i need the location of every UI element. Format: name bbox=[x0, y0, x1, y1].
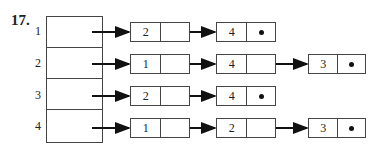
node-value: 2 bbox=[131, 87, 161, 105]
null-pointer-icon bbox=[259, 94, 264, 99]
node-value: 1 bbox=[131, 55, 161, 73]
node-next-pointer bbox=[161, 119, 189, 137]
node-value: 2 bbox=[217, 119, 247, 137]
node-next-pointer bbox=[161, 23, 189, 41]
node-next-pointer bbox=[247, 119, 275, 137]
node-value: 4 bbox=[217, 23, 247, 41]
node-next-pointer bbox=[247, 23, 275, 41]
list-4-node-2: 2 bbox=[216, 118, 276, 138]
node-next-pointer bbox=[338, 119, 365, 137]
node-value: 3 bbox=[309, 119, 338, 137]
node-value: 1 bbox=[131, 119, 161, 137]
node-value: 2 bbox=[131, 23, 161, 41]
null-pointer-icon bbox=[349, 126, 354, 131]
list-2-node-1: 1 bbox=[130, 54, 190, 74]
null-pointer-icon bbox=[259, 30, 264, 35]
node-next-pointer bbox=[338, 55, 365, 73]
list-1-node-1: 2 bbox=[130, 22, 190, 42]
node-next-pointer bbox=[161, 87, 189, 105]
node-next-pointer bbox=[247, 87, 275, 105]
list-2-node-3: 3 bbox=[308, 54, 366, 74]
node-next-pointer bbox=[247, 55, 275, 73]
null-pointer-icon bbox=[349, 62, 354, 67]
list-3-node-2: 4 bbox=[216, 86, 276, 106]
list-3-node-1: 2 bbox=[130, 86, 190, 106]
list-1-node-2: 4 bbox=[216, 22, 276, 42]
list-4-node-3: 3 bbox=[308, 118, 366, 138]
list-4-node-1: 1 bbox=[130, 118, 190, 138]
node-value: 4 bbox=[217, 55, 247, 73]
node-value: 3 bbox=[309, 55, 338, 73]
node-value: 4 bbox=[217, 87, 247, 105]
list-2-node-2: 4 bbox=[216, 54, 276, 74]
node-next-pointer bbox=[161, 55, 189, 73]
